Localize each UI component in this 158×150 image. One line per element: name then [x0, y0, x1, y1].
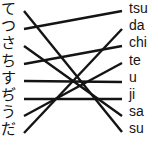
list-item[interactable]: chi — [128, 34, 147, 51]
list-item[interactable]: te — [128, 52, 141, 69]
list-item[interactable]: sa — [128, 103, 144, 120]
list-item[interactable]: tsu — [128, 0, 148, 17]
list-item[interactable]: da — [128, 17, 145, 34]
list-item[interactable]: u — [128, 69, 137, 86]
connection-line[interactable] — [24, 11, 122, 29]
right-column-romaji: tsu da chi te u ji sa su — [128, 0, 158, 150]
matching-exercise: て つ さ ち す ぢ う だ tsu da chi te u ji sa su — [0, 0, 158, 150]
connection-line[interactable] — [24, 46, 122, 64]
list-item[interactable]: ji — [128, 86, 135, 103]
list-item[interactable]: su — [128, 120, 144, 137]
